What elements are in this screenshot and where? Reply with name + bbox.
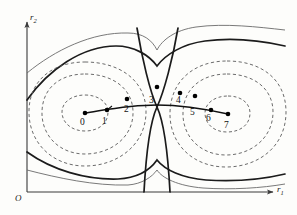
point-marker-6 bbox=[209, 108, 214, 113]
point-label-2: 2 bbox=[124, 105, 129, 115]
x-axis-label-sub: 1 bbox=[281, 189, 284, 196]
solid-contours-group bbox=[27, 28, 285, 192]
point-marker-2 bbox=[125, 97, 130, 102]
x-axis-label: r1 bbox=[277, 185, 284, 196]
left-dashed-middle bbox=[42, 74, 133, 154]
point-label-6: 6 bbox=[206, 114, 211, 124]
point-marker-0 bbox=[83, 111, 88, 116]
solid-contour-lower bbox=[27, 152, 285, 181]
point-label-7: 7 bbox=[224, 121, 229, 131]
point-label-5: 5 bbox=[190, 108, 195, 118]
marked-points-group bbox=[83, 85, 231, 117]
point-label-0: 0 bbox=[80, 118, 85, 128]
point-marker-3 bbox=[155, 85, 160, 90]
point-marker-5 bbox=[193, 94, 198, 99]
point-label-1: 1 bbox=[102, 117, 107, 127]
origin-label: O bbox=[15, 194, 22, 203]
contour-plot-figure: r2 r1 O 0 1 2 3 4 5 6 7 bbox=[0, 0, 297, 215]
point-marker-1 bbox=[105, 108, 110, 113]
y-axis-label: r2 bbox=[30, 13, 37, 24]
plot-canvas bbox=[0, 0, 297, 215]
point-label-3: 3 bbox=[149, 96, 154, 106]
point-marker-7 bbox=[226, 112, 231, 117]
point-label-4: 4 bbox=[176, 96, 181, 106]
y-axis-label-sub: 2 bbox=[34, 17, 37, 24]
